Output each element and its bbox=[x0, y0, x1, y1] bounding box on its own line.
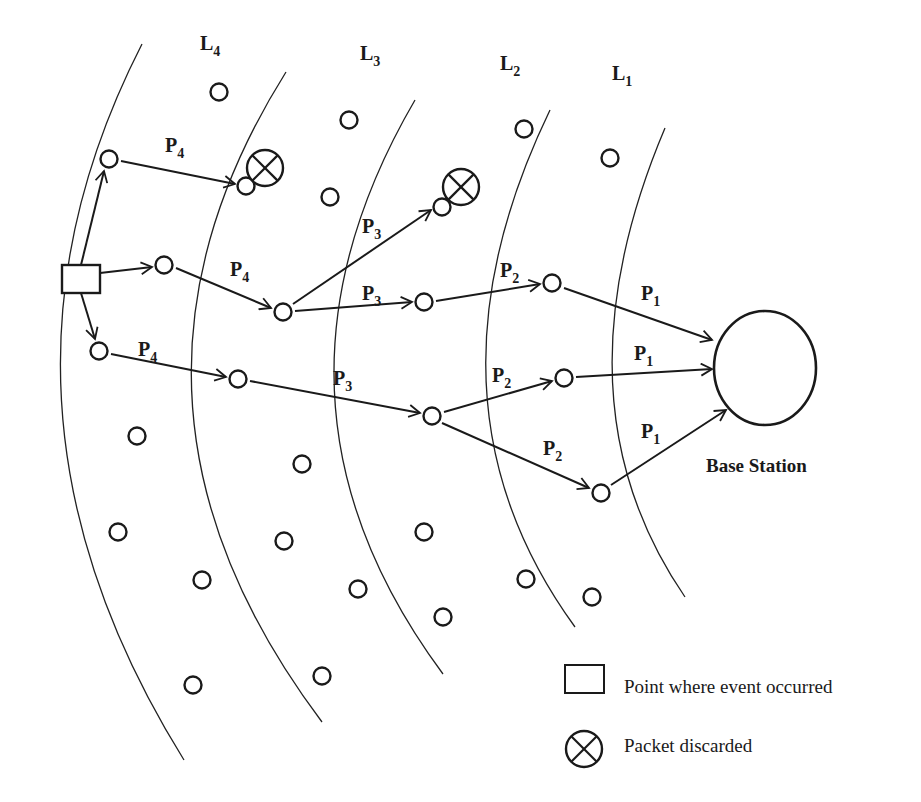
sensor-node-icon bbox=[211, 84, 228, 101]
sensor-node-icon bbox=[276, 533, 293, 550]
sensor-node-icon bbox=[424, 408, 441, 425]
routing-arrow bbox=[295, 302, 412, 311]
layer-label: L4 bbox=[200, 32, 220, 59]
path-label: P3 bbox=[362, 215, 381, 242]
path-label: P2 bbox=[543, 437, 562, 464]
path-label: P2 bbox=[492, 364, 511, 391]
sensor-node-icon bbox=[416, 524, 433, 541]
routing-arrow bbox=[576, 369, 712, 377]
base-station-icon bbox=[714, 311, 816, 425]
sensor-node-icon bbox=[91, 343, 108, 360]
discarded-icon bbox=[247, 150, 283, 186]
path-label: P1 bbox=[641, 420, 660, 447]
routing-arrow bbox=[111, 354, 226, 377]
legend-label-discarded: Packet discarded bbox=[624, 735, 753, 756]
sensor-node-icon bbox=[435, 609, 452, 626]
routing-paths bbox=[81, 161, 726, 488]
legend-label-event: Point where event occurred bbox=[624, 676, 833, 697]
sensor-node-icon bbox=[275, 304, 292, 321]
sensor-node-icon bbox=[314, 668, 331, 685]
sensor-node-icon bbox=[185, 677, 202, 694]
discarded-icon bbox=[443, 169, 479, 205]
sensor-node-icon bbox=[593, 485, 610, 502]
sensor-node-icon bbox=[584, 589, 601, 606]
path-label: P4 bbox=[230, 258, 249, 285]
layer-boundaries bbox=[60, 44, 685, 760]
sensor-node-icon bbox=[544, 275, 561, 292]
sensor-node-icon bbox=[556, 370, 573, 387]
legend-item-event: Point where event occurred bbox=[565, 665, 833, 697]
sensor-node-icon bbox=[110, 524, 127, 541]
sensor-network-diagram: L4L3L2L1 P4P4P4P3P3P3P2P2P2P1P1P1 Base S… bbox=[0, 0, 921, 802]
routing-arrow bbox=[442, 423, 589, 488]
event-point-square-icon bbox=[62, 265, 100, 293]
path-label: P3 bbox=[333, 367, 352, 394]
routing-arrow bbox=[81, 171, 104, 265]
square-icon bbox=[565, 665, 604, 693]
layer-label: L3 bbox=[360, 42, 380, 69]
path-label: P4 bbox=[165, 134, 184, 161]
sensor-node-icon bbox=[350, 581, 367, 598]
routing-arrow bbox=[121, 161, 235, 184]
sensor-node-icon bbox=[518, 571, 535, 588]
sensor-node-icon bbox=[294, 456, 311, 473]
path-label: P2 bbox=[500, 259, 519, 286]
routing-arrow bbox=[100, 267, 152, 273]
base-station: Base Station bbox=[706, 311, 816, 476]
sensor-node-icon bbox=[322, 189, 339, 206]
path-labels: P4P4P4P3P3P3P2P2P2P1P1P1 bbox=[138, 134, 660, 464]
sensor-node-icon bbox=[516, 121, 533, 138]
sensor-node-icon bbox=[416, 294, 433, 311]
sensor-node-icon bbox=[341, 112, 358, 129]
discarded-markers bbox=[247, 150, 479, 205]
routing-arrow bbox=[564, 288, 712, 340]
layer-labels: L4L3L2L1 bbox=[200, 32, 632, 89]
layer-label: L1 bbox=[612, 62, 632, 89]
layer-label: L2 bbox=[500, 52, 520, 79]
legend: Point where event occurred Packet discar… bbox=[565, 665, 833, 767]
sensor-node-icon bbox=[101, 151, 118, 168]
sensor-node-icon bbox=[156, 257, 173, 274]
discarded-icon bbox=[566, 731, 602, 767]
path-label: P1 bbox=[641, 282, 660, 309]
routing-arrow bbox=[176, 268, 271, 308]
legend-item-discarded: Packet discarded bbox=[566, 731, 753, 767]
routing-arrow bbox=[436, 284, 540, 301]
sensor-node-icon bbox=[602, 150, 619, 167]
base-station-label: Base Station bbox=[706, 455, 807, 476]
sensor-nodes bbox=[91, 84, 619, 694]
sensor-node-icon bbox=[230, 371, 247, 388]
sensor-node-icon bbox=[129, 428, 146, 445]
routing-arrow bbox=[81, 293, 95, 339]
sensor-node-icon bbox=[194, 572, 211, 589]
path-label: P1 bbox=[634, 342, 653, 369]
